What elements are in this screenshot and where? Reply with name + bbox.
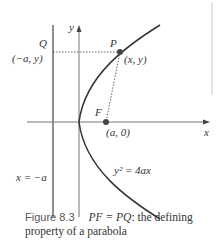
f-label: F [94, 106, 102, 118]
directrix-label: x = −a [15, 171, 47, 183]
pf-dotted-line [106, 52, 120, 122]
p-coords-label: (x, y) [124, 53, 147, 66]
p-label: P [109, 37, 117, 49]
x-axis-label: x [203, 126, 209, 138]
caption-equation: PF = PQ [89, 211, 132, 223]
point-f [103, 119, 109, 125]
caption-text: : the defining [131, 211, 192, 223]
point-p [117, 49, 123, 55]
q-coords-label: (−a, y) [12, 52, 43, 65]
figure-caption: Figure 8.3PF = PQ: the defining property… [25, 210, 218, 238]
x-axis-arrow-icon [203, 120, 210, 125]
caption-line-2: property of a parabola [25, 224, 218, 238]
y-axis-label: y [68, 21, 74, 33]
y-axis-arrow-icon [77, 25, 82, 32]
equation-label: y² = 4ax [113, 164, 151, 176]
figure-number: Figure 8.3 [25, 211, 75, 223]
q-label: Q [39, 37, 47, 49]
caption-line-1: Figure 8.3PF = PQ: the defining [25, 210, 218, 224]
f-coords-label: (a, 0) [106, 126, 130, 139]
